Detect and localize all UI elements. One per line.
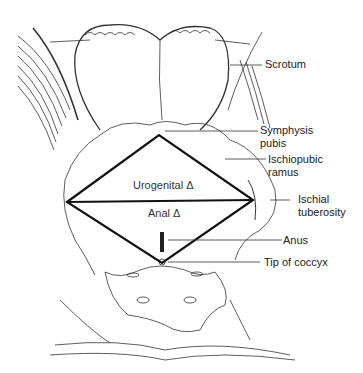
label-tip-of-coccyx: Tip of coccyx — [264, 256, 328, 269]
label-ischial-line2: tuberosity — [298, 206, 346, 219]
urogenital-triangle-label: Urogenital Δ — [133, 179, 194, 191]
perineum-diagram: Scrotum Symphysis pubis Ischiopubic ramu… — [0, 0, 363, 373]
label-ischiopubic-line2: ramus — [268, 166, 323, 179]
label-ischiopubic-ramus: Ischiopubic ramus — [268, 153, 323, 179]
label-anus: Anus — [283, 234, 308, 247]
label-symphysis-line2: pubis — [260, 137, 313, 150]
label-ischial-line1: Ischial — [298, 193, 346, 206]
label-ischiopubic-line1: Ischiopubic — [268, 153, 323, 166]
label-ischial-tuberosity: Ischial tuberosity — [298, 193, 346, 219]
label-symphysis-line1: Symphysis — [260, 124, 313, 137]
anal-triangle-label: Anal Δ — [148, 207, 180, 219]
label-symphysis-pubis: Symphysis pubis — [260, 124, 313, 150]
label-scrotum: Scrotum — [265, 58, 306, 71]
